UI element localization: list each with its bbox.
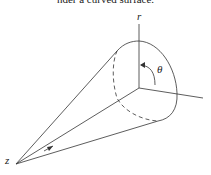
theta-arrowhead-icon (140, 62, 145, 68)
cone-diagram: r θ z (0, 0, 211, 175)
horizontal-axis-line (139, 88, 203, 98)
direction-arrowhead-icon (47, 146, 53, 151)
cone-base-solid-arc (117, 41, 177, 121)
cone-lower-edge (16, 121, 158, 164)
theta-arc (141, 65, 155, 85)
cone-upper-edge (16, 51, 117, 164)
central-axis-line (16, 88, 139, 164)
r-axis-label: r (137, 10, 142, 22)
apex-label: z (4, 154, 10, 166)
cone-base-hidden-arc (113, 51, 158, 121)
theta-label: θ (157, 63, 163, 75)
